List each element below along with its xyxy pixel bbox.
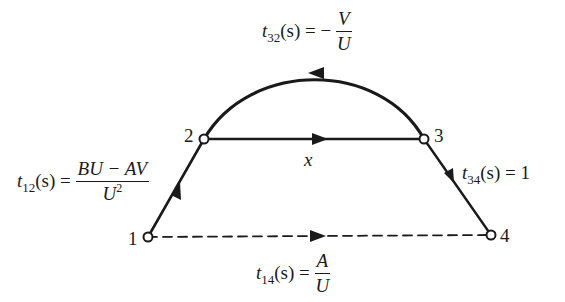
- node-1-label: 1: [128, 229, 138, 248]
- edge-3-4: [424, 139, 491, 235]
- edge-1-2-label: t12(s) = BU − AVU2: [17, 160, 149, 205]
- node-2-circle: [200, 135, 209, 144]
- node-4-circle: [487, 231, 496, 240]
- arrow-icon: [312, 133, 328, 145]
- edge-3-2-curve: [204, 80, 424, 139]
- node-4-label: 4: [500, 226, 510, 245]
- node-3-label: 3: [434, 126, 444, 145]
- arrow-icon: [308, 67, 324, 79]
- edge-3-2-label: t32(s) = − VU: [262, 10, 352, 55]
- node-3-circle: [420, 135, 429, 144]
- node-2-label: 2: [184, 126, 194, 145]
- edge-3-4-label: t34(s) = 1: [462, 163, 530, 182]
- arrow-icon: [310, 230, 326, 242]
- edge-2-3-label: x: [304, 150, 312, 169]
- arrow-icon: [171, 182, 181, 200]
- node-1-circle: [144, 233, 153, 242]
- edge-1-4-label: t14(s) = AU: [256, 252, 330, 297]
